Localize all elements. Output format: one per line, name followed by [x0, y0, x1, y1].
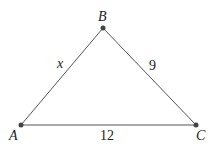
side-bc [103, 28, 196, 125]
side-ab-label: x [56, 56, 64, 71]
vertex-a-point [19, 123, 24, 128]
vertex-b-label: B [98, 9, 107, 24]
vertex-c-label: C [196, 128, 206, 143]
side-ac-label: 12 [100, 128, 114, 143]
triangle-diagram: B A C x 9 12 [0, 0, 217, 148]
vertex-b-point [101, 26, 106, 31]
side-bc-label: 9 [149, 58, 156, 73]
vertex-a-label: A [8, 128, 18, 143]
vertex-c-point [194, 123, 199, 128]
side-ab [21, 28, 103, 125]
